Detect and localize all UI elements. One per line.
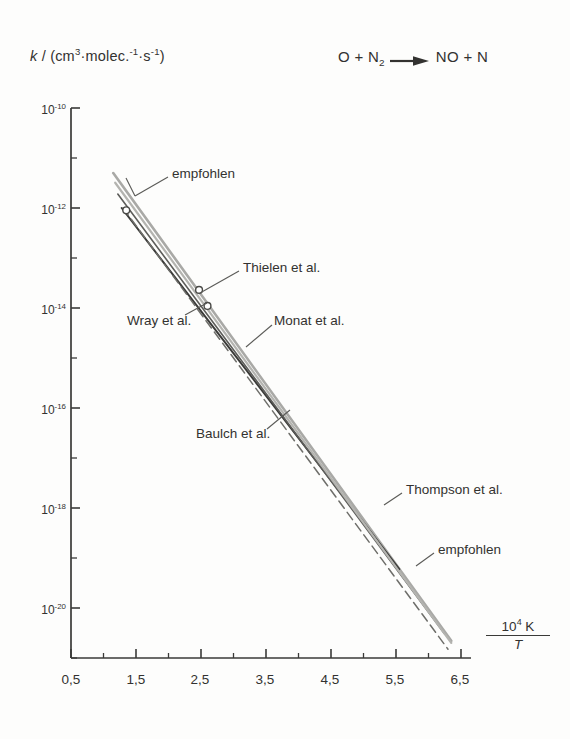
curve-label-thompson: Thompson et al.: [406, 482, 503, 497]
y-tick-exp-1e-10: -10: [55, 102, 66, 111]
y-tick-label-1e-18: 10-18: [18, 502, 66, 517]
curve-label-baulch: Baulch et al.: [196, 426, 270, 441]
leader-empfohlen-top: [135, 177, 168, 196]
axes-group: [71, 108, 471, 658]
y-tick-exp-1e-12: -12: [55, 202, 66, 211]
x-axis-unit-exponent: 4: [517, 617, 522, 627]
arrhenius-plot: [0, 0, 570, 739]
data-marker-wray-et-al: [123, 207, 130, 214]
curve-label-empfohlen-bottom: empfohlen: [438, 542, 501, 557]
y-axis-ticks: [71, 108, 80, 658]
x-tick-label-2-5: 2,5: [180, 672, 220, 687]
curve-label-wray: Wray et al.: [127, 313, 191, 328]
leader-thielen: [200, 271, 239, 293]
leader-thompson: [384, 493, 402, 505]
x-axis-unit-label: 104 K T: [486, 618, 550, 652]
y-tick-label-1e-12: 10-12: [18, 202, 66, 217]
x-axis-ticks: [71, 649, 461, 658]
x-axis-unit-numerator: 104 K: [486, 618, 550, 636]
y-tick-label-1e-20: 10-20: [18, 602, 66, 617]
curve-label-monat: Monat et al.: [274, 313, 345, 328]
data-series-group: [113, 173, 451, 649]
curve-label-empfohlen-top: empfohlen: [172, 166, 235, 181]
y-tick-exp-1e-14: -14: [55, 302, 66, 311]
y-tick-exp-1e-16: -16: [55, 402, 66, 411]
leader-empfohlen-bottom: [416, 553, 434, 566]
x-tick-label-6-5: 6,5: [440, 672, 480, 687]
x-tick-label-0-5: 0,5: [51, 672, 91, 687]
annotation-leader-lines: [126, 177, 434, 566]
leader-monat: [246, 325, 272, 347]
series-line-empfohlen-upper: [113, 173, 451, 641]
y-tick-label-1e-10: 10-10: [18, 102, 66, 117]
x-tick-label-5-5: 5,5: [375, 672, 415, 687]
curve-label-thielen: Thielen et al.: [243, 260, 320, 275]
series-line-empfohlen-lower: [115, 183, 451, 643]
x-axis-unit-denominator: T: [486, 636, 550, 652]
y-tick-label-1e-16: 10-16: [18, 402, 66, 417]
x-tick-label-3-5: 3,5: [245, 672, 285, 687]
y-tick-label-1e-14: 10-14: [18, 302, 66, 317]
x-tick-label-1-5: 1,5: [116, 672, 156, 687]
y-tick-exp-1e-20: -20: [55, 602, 66, 611]
y-tick-exp-1e-18: -18: [55, 502, 66, 511]
x-tick-label-4-5: 4,5: [310, 672, 350, 687]
